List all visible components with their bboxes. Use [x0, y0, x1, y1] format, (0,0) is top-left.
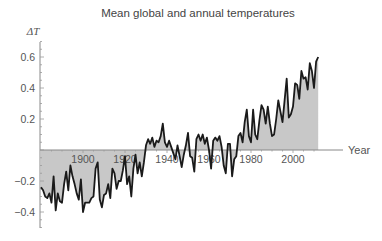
- y-axis-label: ΔT: [26, 25, 40, 37]
- chart-title: Mean global and annual temperatures: [101, 7, 295, 19]
- y-tick-label: 0.6: [20, 51, 35, 63]
- temperature-chart: Mean global and annual temperatures −0.4…: [0, 0, 382, 241]
- y-tick-label: −0.2: [14, 175, 35, 187]
- anomaly-area: [41, 57, 318, 212]
- x-tick-label: 1900: [71, 153, 95, 165]
- y-tick-label: 0.4: [20, 82, 35, 94]
- y-tick-label: −0.4: [14, 206, 35, 218]
- plot-area: −0.4−0.20.20.40.6 1900192019401960198020…: [14, 42, 343, 229]
- y-tick-label: 0.2: [20, 113, 35, 125]
- x-axis-label: Year: [348, 144, 371, 156]
- x-tick-label: 1980: [239, 153, 263, 165]
- x-tick-label: 2000: [281, 153, 305, 165]
